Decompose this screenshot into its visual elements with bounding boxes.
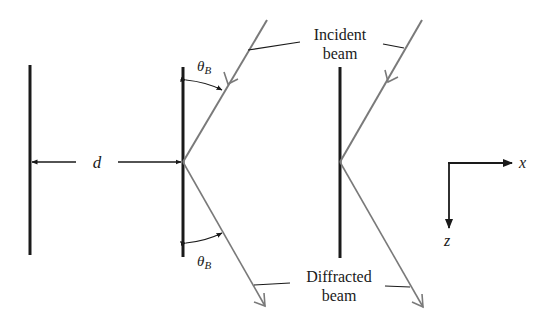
incident-leader-left — [248, 42, 300, 50]
spacing-label: d — [93, 153, 102, 172]
incident-beam-1 — [183, 20, 267, 162]
diffracted-beam-2 — [340, 162, 423, 307]
incident-label-line2: beam — [323, 45, 358, 62]
incident-leader-right — [383, 44, 404, 48]
coordinate-axes — [448, 162, 512, 228]
theta-label-bottom: θB — [197, 253, 211, 271]
theta-subscript: B — [204, 64, 211, 76]
axis-x-label: x — [518, 154, 526, 171]
theta-label-top: θB — [197, 58, 211, 76]
theta-subscript: B — [204, 259, 211, 271]
diffracted-label-line1: Diffracted — [306, 268, 371, 285]
theta-arc-top — [186, 80, 222, 90]
theta-arc-bottom — [186, 233, 222, 243]
diffracted-leader-left — [254, 283, 290, 285]
axis-z-label: z — [443, 232, 451, 249]
diffracted-beam-1 — [183, 162, 265, 306]
incident-label-line1: Incident — [314, 26, 367, 43]
bragg-diagram: d θB θB — [0, 0, 542, 324]
diffracted-leader-right — [385, 286, 410, 287]
diagram-svg: d θB θB — [0, 0, 542, 324]
diffracted-label-line2: beam — [322, 287, 357, 304]
